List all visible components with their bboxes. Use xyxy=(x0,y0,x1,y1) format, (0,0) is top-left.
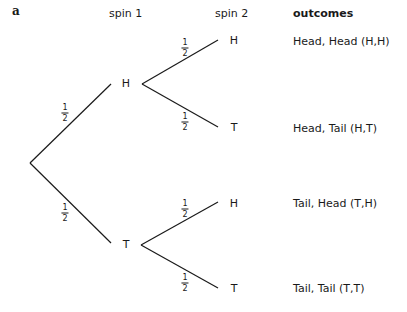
branch-T-to-H xyxy=(141,202,218,245)
prob-root-T: 1 2 xyxy=(61,204,68,223)
node-spin2-TH: H xyxy=(230,197,238,210)
prob-H-H: 1 2 xyxy=(181,39,188,58)
prob-denominator: 2 xyxy=(61,115,68,123)
prob-T-H: 1 2 xyxy=(181,200,188,219)
node-spin1-H: H xyxy=(122,77,130,90)
prob-denominator: 2 xyxy=(181,285,188,293)
node-spin2-HT: T xyxy=(231,121,238,134)
prob-root-H: 1 2 xyxy=(61,104,68,123)
outcome-TT: Tail, Tail (T,T) xyxy=(293,282,365,295)
node-spin2-TT: T xyxy=(231,282,238,295)
prob-numerator: 1 xyxy=(181,113,188,121)
prob-denominator: 2 xyxy=(181,211,188,219)
branch-root-to-H xyxy=(30,84,111,163)
prob-numerator: 1 xyxy=(181,200,188,208)
node-spin1-T: T xyxy=(123,238,130,251)
prob-numerator: 1 xyxy=(181,274,188,282)
outcome-HH: Head, Head (H,H) xyxy=(293,35,390,48)
outcome-TH: Tail, Head (T,H) xyxy=(293,197,377,210)
branch-T-to-T xyxy=(141,245,218,288)
prob-numerator: 1 xyxy=(181,39,188,47)
prob-denominator: 2 xyxy=(181,124,188,132)
outcome-HT: Head, Tail (H,T) xyxy=(293,122,377,135)
prob-denominator: 2 xyxy=(61,215,68,223)
prob-numerator: 1 xyxy=(61,204,68,212)
node-spin2-HH: H xyxy=(230,34,238,47)
branch-root-to-T xyxy=(30,163,111,243)
branch-H-to-T xyxy=(142,84,218,127)
prob-numerator: 1 xyxy=(61,104,68,112)
prob-denominator: 2 xyxy=(181,50,188,58)
prob-H-T: 1 2 xyxy=(181,113,188,132)
branch-H-to-H xyxy=(142,40,218,84)
prob-T-T: 1 2 xyxy=(181,274,188,293)
